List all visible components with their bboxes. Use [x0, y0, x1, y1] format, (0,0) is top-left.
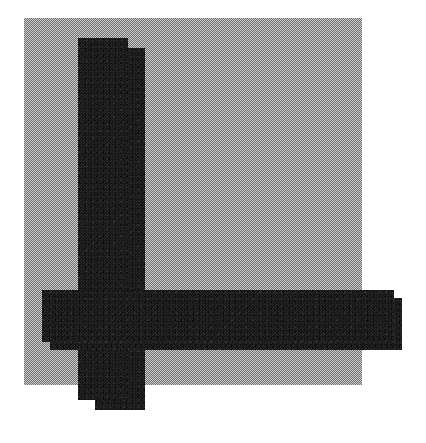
artboard — [0, 0, 426, 443]
horizontal-bar-main — [42, 290, 394, 342]
